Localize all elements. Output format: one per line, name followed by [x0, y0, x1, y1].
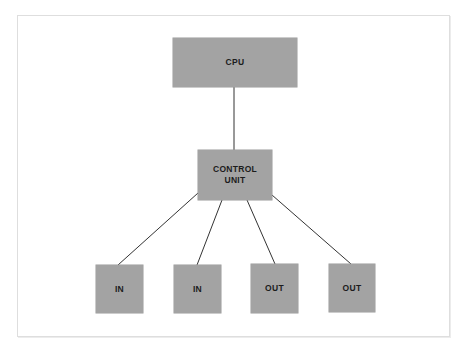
cpu-box: CPU: [173, 38, 297, 87]
control-unit-label-line2: UNIT: [224, 175, 245, 186]
output-label-1: OUT: [265, 283, 284, 294]
input-box-1: IN: [96, 265, 143, 313]
output-label-2: OUT: [343, 283, 362, 294]
connector-control-out-2: [272, 195, 351, 264]
input-label-2: IN: [193, 284, 202, 295]
control-unit-box: CONTROL UNIT: [198, 150, 272, 200]
cpu-label: CPU: [226, 57, 245, 68]
connector-control-out-1: [247, 200, 275, 264]
connector-control-in-1: [118, 193, 198, 265]
input-box-2: IN: [174, 265, 221, 313]
input-label-1: IN: [115, 284, 124, 295]
control-unit-label-line1: CONTROL: [213, 164, 257, 175]
output-box-2: OUT: [329, 264, 375, 312]
connector-control-in-2: [197, 200, 222, 265]
output-box-1: OUT: [251, 264, 298, 313]
